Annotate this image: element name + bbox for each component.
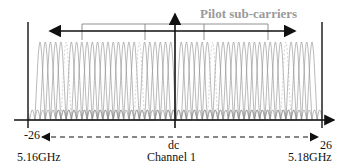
ofdm-subcarrier-diagram: Pilot sub-carriers -26 26 dc Channel 1 5… (0, 0, 348, 168)
right-frequency-label: 5.18GHz (288, 150, 332, 165)
channel-label: Channel 1 (147, 150, 196, 165)
left-index-label: -26 (24, 128, 40, 143)
pilot-subcarriers-label: Pilot sub-carriers (200, 6, 297, 22)
left-frequency-label: 5.16GHz (17, 150, 61, 165)
